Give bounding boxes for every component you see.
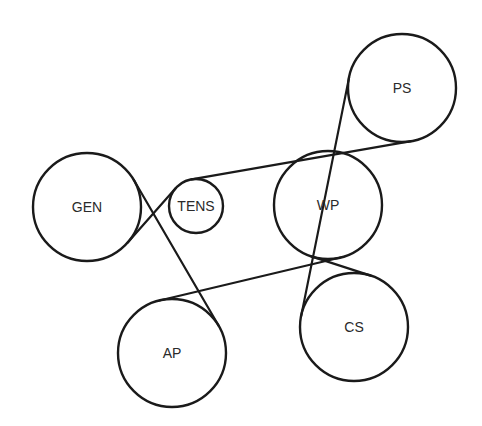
pulley-label-gen: GEN	[72, 199, 102, 215]
pulley-tens: TENS	[169, 179, 223, 233]
belt-segment-tens-ps	[191, 141, 411, 179]
pulley-label-ps: PS	[393, 80, 412, 96]
pulley-ap: AP	[118, 299, 226, 407]
pulley-label-tens: TENS	[177, 198, 214, 214]
belt-segment-wp-ap	[160, 258, 341, 301]
belt-routing-diagram: GENTENSPSCSWPAP	[0, 0, 482, 426]
pulley-label-ap: AP	[163, 345, 182, 361]
pulley-label-wp: WP	[317, 197, 340, 213]
pulley-label-cs: CS	[344, 319, 363, 335]
pulley-gen: GEN	[33, 153, 141, 261]
pulley-wp: WP	[274, 151, 382, 259]
pulley-cs: CS	[300, 273, 408, 381]
pulley-ps: PS	[348, 34, 456, 142]
pulleys: GENTENSPSCSWPAP	[33, 34, 456, 407]
